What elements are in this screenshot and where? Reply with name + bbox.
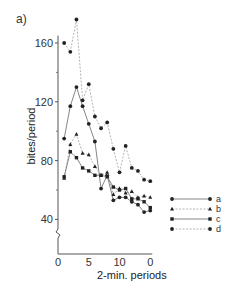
legend-marker-a [208, 197, 212, 201]
data-point-b [130, 189, 134, 193]
y-axis-label: bites/period [25, 91, 37, 181]
data-point-d [124, 144, 128, 148]
data-point-a [136, 203, 140, 207]
legend-label-b: b [216, 204, 221, 214]
data-point-c [142, 200, 145, 203]
data-point-c [118, 188, 121, 191]
legend-marker-c [170, 217, 173, 220]
data-point-d [142, 178, 146, 182]
data-point-c [93, 174, 96, 177]
data-point-a [111, 198, 115, 202]
data-point-a [118, 195, 122, 199]
data-point-d [75, 18, 79, 22]
data-point-c [136, 197, 139, 200]
y-tick-label: 40 [41, 213, 53, 225]
data-point-d [93, 115, 97, 119]
legend-marker-c [208, 217, 211, 220]
data-point-a [87, 122, 91, 126]
data-point-b [74, 132, 78, 136]
data-point-d [68, 50, 72, 54]
data-point-d [130, 166, 134, 170]
data-point-b [142, 194, 146, 198]
data-point-d [99, 126, 103, 130]
data-point-a [81, 104, 85, 108]
data-point-a [62, 137, 66, 141]
x-tick-label: 0 [147, 256, 153, 268]
data-point-b [93, 164, 97, 168]
data-point-b [105, 170, 109, 174]
data-point-d [148, 179, 152, 183]
data-point-d [87, 82, 91, 86]
data-point-d [105, 120, 109, 124]
data-point-c [106, 175, 109, 178]
data-point-a [99, 187, 103, 191]
data-point-c [75, 156, 78, 159]
x-tick-label: 5 [86, 256, 92, 268]
data-point-a [75, 85, 79, 89]
data-point-b [81, 151, 85, 155]
x-tick-label: 0 [55, 256, 61, 268]
x-axis-label: 2-min. periods [97, 269, 167, 281]
data-point-d [111, 147, 115, 151]
data-point-c [149, 206, 152, 209]
series-line-a [64, 87, 150, 212]
y-tick-label: 80 [41, 155, 53, 167]
data-point-c [130, 197, 133, 200]
x-tick-label: 10 [113, 256, 125, 268]
data-point-c [124, 187, 127, 190]
data-point-d [62, 41, 66, 45]
legend-label-d: d [216, 224, 221, 234]
data-point-a [124, 195, 128, 199]
data-point-a [68, 104, 72, 108]
y-tick-label: 120 [35, 96, 53, 108]
data-point-d [118, 170, 122, 174]
data-point-c [112, 185, 115, 188]
data-point-c [81, 166, 84, 169]
legend-label-a: a [216, 194, 221, 204]
data-point-d [81, 98, 85, 102]
data-point-c [62, 175, 65, 178]
data-point-c [99, 174, 102, 177]
data-point-d [136, 169, 140, 173]
legend-marker-d [208, 227, 212, 231]
legend-marker-d [170, 227, 174, 231]
y-tick-label: 160 [35, 37, 53, 49]
data-point-a [142, 210, 146, 214]
data-point-c [87, 169, 90, 172]
series-line-b [64, 134, 150, 197]
axis-break-icon [56, 229, 60, 238]
data-point-c [69, 150, 72, 153]
legend-label-c: c [216, 214, 221, 224]
data-point-a [93, 140, 97, 144]
legend-marker-a [170, 197, 174, 201]
